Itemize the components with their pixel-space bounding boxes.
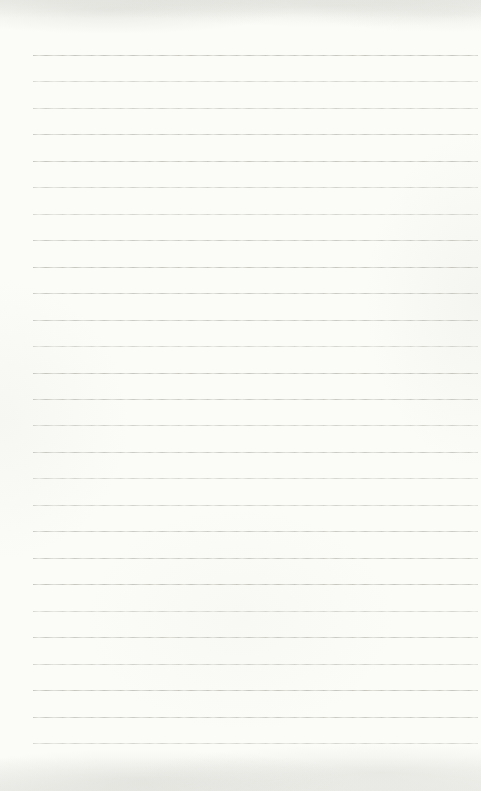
ruled-line (33, 743, 478, 744)
ruled-lines (33, 55, 478, 745)
ruled-line (33, 717, 478, 718)
bottom-edge-shade (0, 757, 481, 791)
ruled-line (33, 690, 478, 691)
ruled-line (33, 558, 478, 559)
ruled-line (33, 637, 478, 638)
ruled-line (33, 452, 478, 453)
ruled-line (33, 81, 478, 82)
notebook-page (0, 0, 481, 791)
ruled-line (33, 293, 478, 294)
ruled-line (33, 478, 478, 479)
ruled-line (33, 531, 478, 532)
ruled-line (33, 346, 478, 347)
ruled-line (33, 240, 478, 241)
ruled-line (33, 320, 478, 321)
ruled-line (33, 267, 478, 268)
ruled-line (33, 214, 478, 215)
ruled-line (33, 161, 478, 162)
ruled-line (33, 425, 478, 426)
top-edge-shade (0, 0, 481, 18)
ruled-line (33, 611, 478, 612)
ruled-line (33, 399, 478, 400)
ruled-line (33, 664, 478, 665)
ruled-line (33, 187, 478, 188)
ruled-line (33, 584, 478, 585)
ruled-line (33, 108, 478, 109)
ruled-line (33, 373, 478, 374)
ruled-line (33, 505, 478, 506)
ruled-line (33, 55, 478, 56)
ruled-line (33, 134, 478, 135)
